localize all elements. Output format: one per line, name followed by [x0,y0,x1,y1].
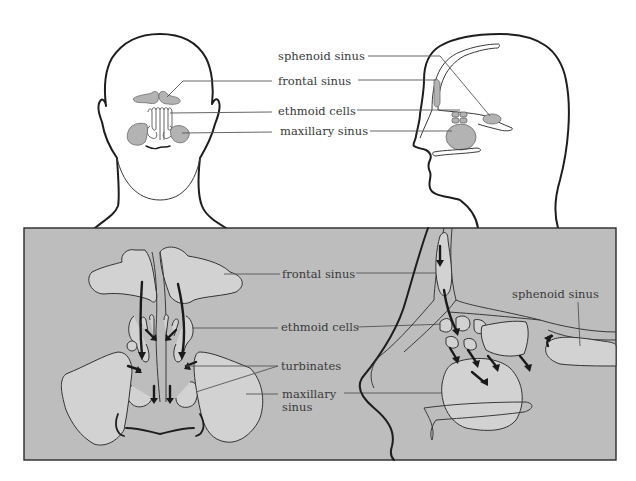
ethmoid-cells-side [452,112,467,123]
frontal-sinus-side [434,79,440,107]
skull-arch-inner [438,44,500,110]
front-view-head [95,34,226,228]
jaw-line [117,158,200,200]
sphenoid-sinus-side-panel [546,337,616,366]
maxillary-sinus-left-front [127,123,147,145]
label-turbinates-panel: turbinates [281,359,341,373]
head-outline-front [95,34,226,228]
label-maxillary-panel-line1: maxillary [282,387,337,401]
sinus-anatomy-diagram: sphenoid sinus frontal sinus ethmoid cel… [0,0,636,481]
frontal-sinus-left-front [133,91,159,103]
label-frontal-sinus-panel: frontal sinus [282,267,355,281]
nasal-bone [420,110,432,138]
label-sphenoid-sinus-panel: sphenoid sinus [512,287,599,301]
ethmoid-cells-front [147,108,173,140]
label-ethmoid-cells-top: ethmoid cells [278,104,356,118]
maxillary-sinus-side [446,124,476,150]
nostril-line-front [146,146,170,149]
sphenoid-sinus-side [483,114,501,124]
label-frontal-sinus-top: frontal sinus [278,74,351,88]
label-ethmoid-cells-panel: ethmoid cells [281,320,359,334]
maxillary-sinus-right-front [171,126,190,143]
skull-arch-outer [432,44,498,110]
frontal-sinus-right-front [159,91,180,104]
label-maxillary-sinus-top: maxillary sinus [280,124,368,138]
maxillary-sinus-side-panel [442,358,523,430]
label-sphenoid-sinus-top: sphenoid sinus [278,49,365,63]
label-maxillary-panel-line2: sinus [282,400,312,414]
skull-base [438,110,512,131]
